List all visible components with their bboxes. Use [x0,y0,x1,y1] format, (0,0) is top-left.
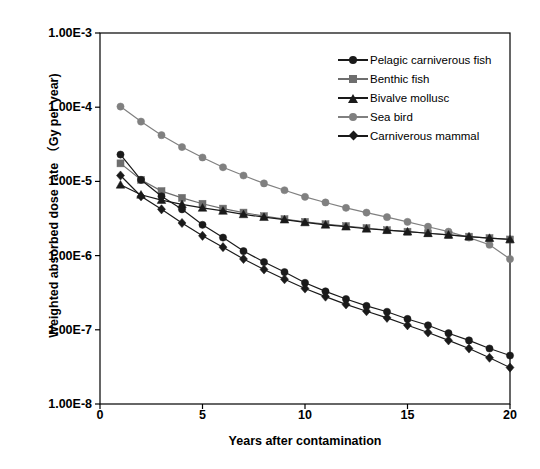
data-point-circle [363,209,370,216]
data-point-diamond [486,353,494,362]
data-point-diamond [260,265,268,274]
legend-label: Sea bird [368,111,413,123]
data-point-diamond [424,328,432,337]
data-point-diamond [240,254,248,263]
series-line [121,155,511,356]
data-point-diamond [178,218,186,227]
data-point-circle [178,206,185,213]
data-point-circle [178,143,185,150]
data-point-circle [117,103,124,110]
data-point-diamond [158,205,166,214]
data-point-square [117,160,124,167]
data-point-circle [137,176,144,183]
data-point-circle [219,234,226,241]
legend-item-benthic-fish[interactable]: Benthic fish [338,69,510,88]
chart-figure: Weighted absorbed dose rate （Gy per year… [0,0,540,469]
data-point-circle [383,214,390,221]
data-point-circle [199,221,206,228]
data-point-circle [486,241,493,248]
series-pelagic-carniverous-fish [117,151,514,359]
data-point-circle [506,352,513,359]
data-point-diamond [404,321,412,330]
data-point-circle [117,151,124,158]
chart-legend: Pelagic carniverous fishBenthic fishBiva… [338,50,510,145]
series-benthic-fish [117,160,514,243]
legend-item-sea-bird[interactable]: Sea bird [338,107,510,126]
data-point-diamond [506,363,514,372]
data-point-circle [158,193,165,200]
legend-label: Benthic fish [368,73,429,85]
data-point-diamond [199,231,207,240]
data-point-circle [404,218,411,225]
data-point-diamond [281,275,289,284]
data-point-circle [465,337,472,344]
data-point-circle [240,247,247,254]
series-carniverous-mammal [117,171,515,372]
legend-marker-square-icon [338,71,368,87]
legend-marker-triangle-icon [338,90,368,106]
legend-marker-diamond-icon [338,128,368,144]
data-point-diamond [465,344,473,353]
legend-label: Carniverous mammal [368,130,479,142]
legend-symbol [348,94,358,103]
legend-marker-circle-icon [338,109,368,125]
legend-label: Bivalve mollusc [368,92,449,104]
legend-item-bivalve-mollusc[interactable]: Bivalve mollusc [338,88,510,107]
data-point-circle [281,187,288,194]
data-point-circle [322,199,329,206]
data-point-diamond [445,336,453,345]
data-point-diamond [219,243,227,252]
legend-symbol [349,113,357,121]
data-point-circle [301,193,308,200]
data-point-circle [240,172,247,179]
legend-symbol [349,56,357,64]
data-point-circle [342,204,349,211]
data-point-circle [506,255,513,262]
data-point-triangle [116,180,125,188]
legend-symbol [349,75,357,83]
legend-item-pelagic-carniverous-fish[interactable]: Pelagic carniverous fish [338,50,510,69]
data-point-circle [199,154,206,161]
data-point-circle [260,180,267,187]
data-point-circle [137,118,144,125]
data-point-circle [486,345,493,352]
legend-item-carniverous-mammal[interactable]: Carniverous mammal [338,126,510,145]
legend-label: Pelagic carniverous fish [368,54,491,66]
legend-symbol [348,130,358,140]
data-point-circle [219,164,226,171]
data-point-circle [158,132,165,139]
legend-marker-circle-icon [338,52,368,68]
data-point-diamond [383,313,391,322]
